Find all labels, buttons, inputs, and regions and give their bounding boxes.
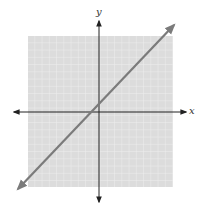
coordinate-plane bbox=[0, 0, 201, 210]
y-axis-label: y bbox=[96, 6, 102, 17]
x-axis-label: x bbox=[189, 105, 195, 116]
